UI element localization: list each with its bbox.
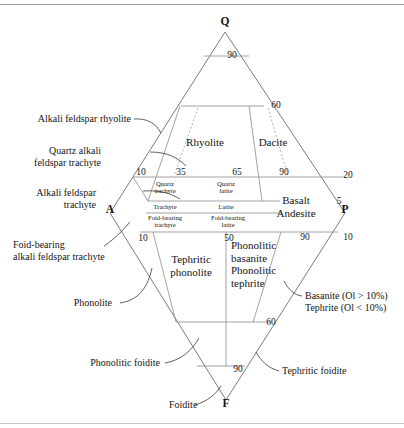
callout-label-alkali-feldspar-rhyolite: Alkali feldspar rhyolite — [38, 113, 132, 124]
field-label-latite-line: Latite — [218, 203, 233, 210]
tick-label-3: 35 — [176, 167, 186, 177]
field-label-phonolitic-basanite-tephrite-line: Phonolitic — [231, 239, 276, 251]
tick-label-7: 5 — [337, 196, 342, 206]
field-label-basalt-andesite: BasaltAndesite — [276, 194, 315, 219]
callout-label-quartz-alkali-feldspar-trachyte-line: feldspar trachyte — [34, 157, 101, 168]
callout-label-tephritic-foidite: Tephritic foidite — [282, 365, 347, 376]
leader-line-0 — [134, 119, 161, 133]
field-label-latite: Latite — [218, 203, 233, 210]
grid-line-11 — [249, 106, 262, 201]
tick-labels: 906010356590205105090106090 — [136, 50, 353, 374]
leader-line-8 — [284, 281, 302, 296]
field-label-foid-bearing-trachyte-line: Foid-bearing — [148, 214, 183, 221]
field-label-foid-bearing-latite-line: Foid-bearing — [211, 214, 246, 221]
vertex-label-a: A — [106, 203, 115, 215]
callout-label-phonolitic-foidite: Phonolitic foidite — [90, 357, 160, 368]
tick-label-1: 60 — [271, 100, 281, 110]
tick-label-13: 90 — [233, 364, 243, 374]
field-label-quartz-trachyte-line: trachyte — [154, 187, 175, 194]
field-label-phonolitic-basanite-tephrite-line: basanite — [231, 252, 267, 264]
leader-line-5 — [165, 338, 199, 363]
callout-label-foidite: Foidite — [169, 399, 198, 410]
tick-label-0: 90 — [227, 50, 237, 60]
tick-label-6: 20 — [343, 170, 353, 180]
grid-line-9 — [133, 177, 148, 201]
field-label-foid-bearing-latite: Foid-bearinglatite — [211, 214, 246, 228]
callout-label-foid-bearing-alkali-feldspar-trachyte: Foid-bearingalkali feldspar trachyte — [13, 239, 105, 262]
callout-label-alkali-feldspar-trachyte: Alkali feldspartrachyte — [36, 187, 96, 210]
callout-label-basanite-tephrite-olivine-line: Tephrite (Ol < 10%) — [305, 302, 386, 314]
callout-label-quartz-alkali-feldspar-trachyte: Quartz alkalifeldspar trachyte — [34, 145, 101, 168]
callout-label-tephritic-foidite-line: Tephritic foidite — [282, 365, 347, 376]
tick-label-11: 10 — [343, 232, 353, 242]
field-label-foid-bearing-trachyte: Foid-bearingtrachyte — [148, 214, 183, 228]
vertex-label-p: P — [341, 203, 348, 215]
callout-label-phonolite: Phonolite — [74, 297, 113, 308]
tick-label-4: 65 — [232, 167, 242, 177]
field-label-quartz-latite-line: Quartz — [217, 180, 235, 187]
tick-label-10: 90 — [300, 232, 310, 242]
field-label-quartz-latite-line: latite — [219, 187, 232, 194]
tick-label-5: 90 — [279, 167, 289, 177]
qapf-diagram: QAPF 906010356590205105090106090 Rhyolit… — [0, 0, 404, 428]
callout-label-foid-bearing-alkali-feldspar-trachyte-line: alkali feldspar trachyte — [13, 251, 105, 262]
tick-label-12: 60 — [266, 317, 276, 327]
field-label-dacite: Dacite — [259, 136, 288, 148]
callout-label-basanite-tephrite-olivine: Basanite (Ol > 10%)Tephrite (Ol < 10%) — [305, 290, 388, 314]
leader-line-1 — [150, 152, 186, 166]
field-label-phonolitic-basanite-tephrite: PhonoliticbasanitePhonolitictephrite — [231, 239, 276, 289]
field-label-phonolitic-basanite-tephrite-line: Phonolitic — [231, 264, 276, 276]
field-label-dacite-line: Dacite — [259, 136, 288, 148]
callout-label-foidite-line: Foidite — [169, 399, 198, 410]
field-label-quartz-latite: Quartzlatite — [217, 180, 235, 194]
tick-label-2: 10 — [136, 167, 146, 177]
field-label-foid-bearing-trachyte-line: trachyte — [154, 221, 175, 228]
leader-line-7 — [256, 352, 279, 371]
inner-field-labels: QuartztrachyteQuartzlatiteTrachyteLatite… — [148, 180, 246, 228]
field-label-basalt-andesite-line: Andesite — [276, 207, 315, 219]
callout-label-phonolitic-foidite-line: Phonolitic foidite — [90, 357, 160, 368]
vertex-label-f: F — [222, 397, 229, 409]
callout-label-alkali-feldspar-trachyte-line: trachyte — [64, 199, 97, 210]
callout-label-quartz-alkali-feldspar-trachyte-line: Quartz alkali — [49, 145, 101, 156]
callout-label-foid-bearing-alkali-feldspar-trachyte-line: Foid-bearing — [13, 239, 65, 250]
leader-line-3 — [104, 222, 130, 246]
field-label-quartz-trachyte-line: Quartz — [156, 180, 174, 187]
field-label-tephritic-phonolite: Tephriticphonolite — [170, 253, 212, 278]
field-label-rhyolite: Rhyolite — [186, 136, 224, 148]
field-label-tephritic-phonolite-line: phonolite — [170, 266, 212, 278]
field-label-trachyte-line: Trachyte — [153, 203, 176, 210]
callout-label-basanite-tephrite-olivine-line: Basanite (Ol > 10%) — [305, 290, 388, 302]
field-label-basalt-andesite-line: Basalt — [282, 194, 310, 206]
field-label-quartz-trachyte: Quartztrachyte — [154, 180, 175, 194]
field-label-phonolitic-basanite-tephrite-line: tephrite — [231, 277, 265, 289]
field-label-trachyte: Trachyte — [153, 203, 176, 210]
field-label-rhyolite-line: Rhyolite — [186, 136, 224, 148]
callout-label-alkali-feldspar-trachyte-line: Alkali feldspar — [36, 187, 96, 198]
major-field-labels: RhyoliteDaciteBasaltAndesiteTephriticpho… — [170, 136, 315, 289]
figure-canvas: QAPF 906010356590205105090106090 Rhyolit… — [0, 0, 404, 428]
field-label-foid-bearing-latite-line: latite — [221, 221, 234, 228]
callout-label-alkali-feldspar-rhyolite-line: Alkali feldspar rhyolite — [38, 113, 132, 124]
vertex-label-q: Q — [221, 15, 230, 27]
callout-label-phonolite-line: Phonolite — [74, 297, 113, 308]
field-label-tephritic-phonolite-line: Tephritic — [171, 253, 211, 265]
leader-line-6 — [195, 386, 221, 405]
tick-label-8: 10 — [138, 233, 148, 243]
